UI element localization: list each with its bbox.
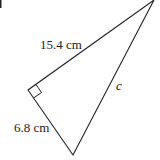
corner-mark <box>0 0 2 8</box>
lower-leg-label: 6.8 cm <box>14 120 49 135</box>
upper-leg-label: 15.4 cm <box>40 37 82 52</box>
triangle-diagram: 15.4 cm 6.8 cm c <box>0 0 160 160</box>
hypotenuse-label: c <box>116 78 122 93</box>
right-angle-marker <box>34 85 42 99</box>
